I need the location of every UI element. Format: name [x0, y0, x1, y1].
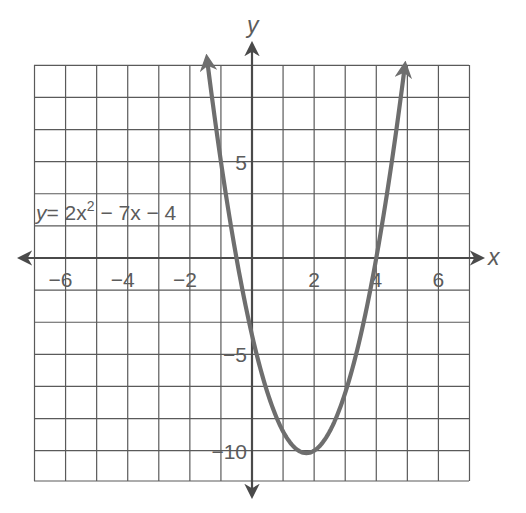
x-tick-label: −6 — [49, 268, 73, 291]
y-tick-label: 5 — [235, 151, 247, 174]
y-tick-label: −5 — [223, 343, 247, 366]
parabola-chart: −6−4−22465−5−10 x y y= 2x2 − 7x − 4 — [0, 0, 526, 513]
x-tick-label: 2 — [308, 268, 320, 291]
equation-lhs: = 2x — [47, 201, 88, 224]
equation-exponent: 2 — [87, 198, 95, 214]
x-tick-label: −4 — [111, 268, 135, 291]
y-tick-label: −10 — [211, 440, 247, 463]
equation-rest: − 7x − 4 — [95, 201, 177, 224]
parabola-curve — [208, 66, 405, 453]
equation-label: y= 2x2 − 7x − 4 — [34, 198, 177, 224]
x-axis-label: x — [487, 244, 501, 270]
axes — [20, 44, 482, 496]
y-axis-label: y — [245, 12, 260, 38]
x-tick-label: −2 — [173, 268, 197, 291]
x-tick-label: 6 — [433, 268, 445, 291]
